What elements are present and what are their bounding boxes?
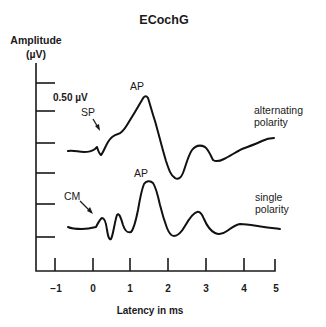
x-tick-labels: −1 0 1 2 3 4 5	[50, 283, 279, 294]
single-polarity-label-line1: single	[255, 191, 283, 203]
chart-title: ECochG	[139, 13, 188, 27]
x-tick-label: 4	[241, 283, 247, 294]
ap-label-upper: AP	[130, 80, 144, 92]
cm-arrow-icon	[80, 201, 93, 214]
x-tick-label: 1	[127, 283, 133, 294]
x-tick-label: −1	[50, 283, 62, 294]
y-axis-label-line1: Amplitude	[10, 34, 61, 46]
ecochg-chart: ECochG Amplitude (µV) −1 0 1 2 3 4 5 Lat…	[0, 0, 326, 327]
alternating-polarity-label-line1: alternating	[254, 104, 303, 116]
x-tick-label: 3	[203, 283, 209, 294]
x-tick-label: 0	[90, 283, 96, 294]
x-tick-label: 2	[165, 283, 171, 294]
sp-label: SP	[81, 106, 95, 118]
alternating-polarity-waveform	[68, 96, 274, 179]
single-polarity-label-line2: polarity	[255, 203, 290, 215]
cm-label: CM	[64, 190, 80, 202]
x-axis-label: Latency in ms	[117, 305, 184, 316]
y-axis-label-line2: (µV)	[26, 48, 46, 60]
alternating-polarity-label-line2: polarity	[254, 116, 289, 128]
sp-arrow-icon	[93, 119, 100, 131]
scale-annotation: 0.50 µV	[53, 92, 88, 103]
ap-label-lower: AP	[134, 167, 148, 179]
single-polarity-waveform	[68, 181, 280, 239]
x-tick-label: 5	[273, 283, 279, 294]
